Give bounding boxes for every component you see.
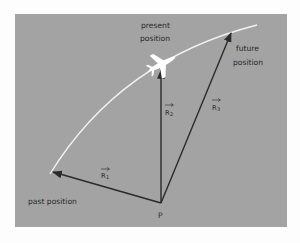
vector-r3-label: R 3 — [212, 99, 221, 113]
airplane-icon — [143, 45, 182, 82]
origin-p-label: P — [158, 211, 163, 220]
past-position-label: past position — [28, 197, 77, 206]
future-position-label-2: position — [233, 58, 263, 67]
trajectory-arc — [50, 25, 257, 174]
vector-r1-label: R 1 — [101, 168, 110, 181]
svg-text:1: 1 — [106, 174, 109, 180]
present-position-label-2: position — [140, 34, 170, 43]
svg-text:3: 3 — [217, 106, 220, 112]
svg-text:2: 2 — [170, 111, 173, 117]
future-position-label-1: future — [236, 44, 259, 53]
vector-r2-label: R 2 — [165, 104, 174, 118]
position-vector-diagram: present position future position past po… — [0, 0, 300, 243]
present-position-label-1: present — [141, 21, 170, 30]
